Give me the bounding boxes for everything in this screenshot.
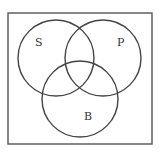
venn-diagram: S P B	[0, 0, 162, 153]
set-p-circle	[65, 20, 141, 96]
set-p-label: P	[117, 36, 125, 49]
set-s-label: S	[35, 36, 43, 49]
set-b-circle	[42, 61, 118, 137]
set-b-label: B	[84, 110, 92, 123]
set-s-circle	[18, 20, 94, 96]
